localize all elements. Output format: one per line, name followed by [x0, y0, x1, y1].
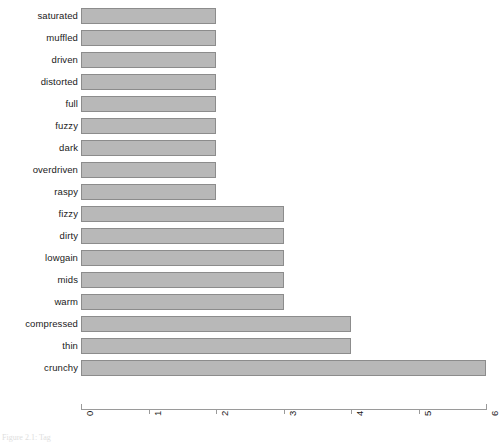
bar — [81, 74, 216, 90]
x-axis-tick — [216, 409, 217, 414]
bar — [81, 250, 284, 266]
bar-category-label: overdriven — [33, 159, 78, 181]
bar-category-label: saturated — [37, 5, 78, 27]
bar-row: full — [0, 93, 496, 115]
x-axis-tick-label: 0 — [85, 411, 95, 416]
figure-caption: Figure 2.1: Tag — [2, 433, 51, 442]
x-axis-tick — [81, 404, 82, 410]
bar-row: saturated — [0, 5, 496, 27]
x-axis-tick-label: 2 — [220, 411, 230, 416]
bar-row: fuzzy — [0, 115, 496, 137]
bar-row: driven — [0, 49, 496, 71]
bar — [81, 118, 216, 134]
bar-category-label: full — [65, 93, 78, 115]
bar-category-label: mids — [58, 269, 78, 291]
bar-category-label: thin — [62, 335, 78, 357]
bar-row: thin — [0, 335, 496, 357]
bar-category-label: distorted — [41, 71, 78, 93]
bar — [81, 8, 216, 24]
bar-row: dark — [0, 137, 496, 159]
bar-category-label: fuzzy — [55, 115, 78, 137]
bar — [81, 228, 284, 244]
x-axis-tick — [419, 409, 420, 414]
x-axis-tick-label: 1 — [153, 411, 163, 416]
bar — [81, 52, 216, 68]
bar-row: distorted — [0, 71, 496, 93]
bar — [81, 206, 284, 222]
bar-category-label: warm — [54, 291, 78, 313]
bar-row: mids — [0, 269, 496, 291]
bar-row: raspy — [0, 181, 496, 203]
bar — [81, 316, 351, 332]
bar — [81, 184, 216, 200]
bar-category-label: dirty — [60, 225, 78, 247]
bar-category-label: driven — [52, 49, 78, 71]
bar-row: overdriven — [0, 159, 496, 181]
bar — [81, 272, 284, 288]
bar-category-label: dark — [59, 137, 78, 159]
bar-category-label: lowgain — [45, 247, 78, 269]
bar-row: crunchy — [0, 357, 496, 379]
x-axis-tick — [486, 404, 487, 410]
bar — [81, 96, 216, 112]
bar — [81, 30, 216, 46]
x-axis-tick — [284, 409, 285, 414]
bar-row: fizzy — [0, 203, 496, 225]
bar — [81, 162, 216, 178]
x-axis-tick-label: 6 — [490, 411, 500, 416]
bar-category-label: muffled — [46, 27, 78, 49]
bar — [81, 294, 284, 310]
bar-row: lowgain — [0, 247, 496, 269]
x-axis-tick-label: 5 — [423, 411, 433, 416]
x-axis-tick-label: 3 — [288, 411, 298, 416]
bar-row: dirty — [0, 225, 496, 247]
bar — [81, 338, 351, 354]
bar-category-label: crunchy — [44, 357, 78, 379]
bar-category-label: compressed — [25, 313, 78, 335]
bar-category-label: raspy — [54, 181, 78, 203]
bar — [81, 360, 486, 376]
x-axis-tick — [149, 409, 150, 414]
x-axis-tick — [351, 409, 352, 414]
bar — [81, 140, 216, 156]
bar-category-label: fizzy — [59, 203, 79, 225]
bar-row: compressed — [0, 313, 496, 335]
bar-row: muffled — [0, 27, 496, 49]
bar-row: warm — [0, 291, 496, 313]
x-axis-tick-label: 4 — [355, 411, 365, 416]
